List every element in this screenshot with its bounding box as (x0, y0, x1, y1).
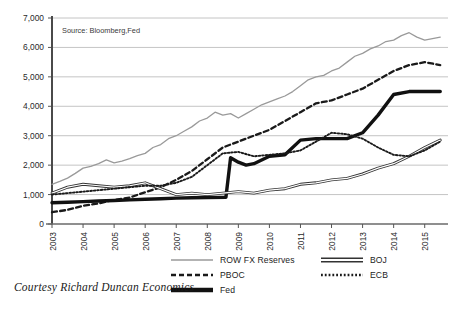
chart-svg: 01,0002,0003,0004,0005,0006,0007,000 200… (0, 0, 452, 258)
x-tick-label: 2010 (265, 232, 275, 251)
legend-key-swatch (320, 269, 364, 281)
legend-item-label: ROW FX Reserves (220, 254, 295, 266)
legend-item[interactable]: ROW FX Reserves (170, 253, 295, 267)
legend-item[interactable]: ECB (320, 268, 388, 282)
legend-item[interactable]: BOJ (320, 253, 388, 267)
legend-column-right: BOJECB (320, 253, 388, 283)
legend-key-swatch (170, 269, 214, 281)
x-tick-label: 2012 (327, 232, 337, 251)
x-tick-label: 2014 (389, 232, 399, 251)
figure-caption: Courtesy Richard Duncan Economics (14, 281, 194, 293)
legend-key-swatch (170, 254, 214, 266)
legend-line-icon (170, 269, 214, 281)
x-tick-label: 2007 (172, 232, 182, 251)
y-tick-label: 2,000 (23, 160, 44, 170)
legend-item[interactable]: PBOC (170, 268, 295, 282)
gridlines-group (52, 18, 448, 195)
y-tick-label: 7,000 (23, 13, 44, 23)
legend-line-icon (170, 254, 214, 266)
series-line-pboc (52, 62, 440, 212)
x-axis-group: 2003200420052006200720082009201020112012… (46, 224, 448, 251)
x-tick-label: 2013 (358, 232, 368, 251)
chart-plot-area: 01,0002,0003,0004,0005,0006,0007,000 200… (0, 0, 452, 258)
y-tick-label: 6,000 (23, 42, 44, 52)
x-tick-label: 2008 (203, 232, 213, 251)
series-line-boj (52, 140, 440, 194)
y-tick-label: 1,000 (23, 190, 44, 200)
legend-item-label: PBOC (220, 269, 245, 281)
x-tick-label: 2003 (48, 232, 58, 251)
x-tick-label: 2005 (110, 232, 120, 251)
legend-item-label: BOJ (370, 254, 387, 266)
legend-line-icon (320, 254, 364, 266)
y-tick-label: 3,000 (23, 131, 44, 141)
y-tick-label: 5,000 (23, 72, 44, 82)
legend-item-label: ECB (370, 269, 388, 281)
y-axis-group: 01,0002,0003,0004,0005,0006,0007,000 (23, 13, 52, 229)
x-tick-label: 2006 (141, 232, 151, 251)
x-tick-label: 2004 (79, 232, 89, 251)
legend-key-swatch (320, 254, 364, 266)
y-tick-label: 0 (39, 219, 44, 229)
legend-line-icon (320, 269, 364, 281)
chart-legend: ROW FX ReservesPBOCFed BOJECB (170, 253, 452, 301)
source-note: Source: Bloomberg,Fed (62, 26, 140, 35)
legend-item-label: Fed (220, 284, 235, 296)
x-tick-label: 2011 (296, 232, 306, 250)
series-group (52, 33, 440, 213)
chart-figure: 01,0002,0003,0004,0005,0006,0007,000 200… (0, 0, 452, 311)
x-tick-label: 2009 (234, 232, 244, 251)
x-tick-label: 2015 (420, 232, 430, 251)
y-tick-label: 4,000 (23, 101, 44, 111)
